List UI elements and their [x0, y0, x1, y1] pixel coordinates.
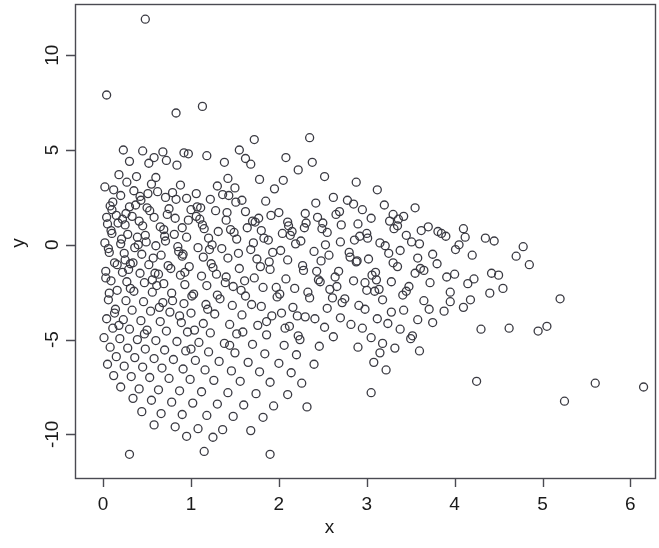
x-axis-title: x — [0, 516, 659, 538]
scatter-plot-canvas — [0, 0, 659, 548]
y-axis-title: y — [7, 225, 29, 261]
scatter-plot-figure: x y — [0, 0, 659, 548]
